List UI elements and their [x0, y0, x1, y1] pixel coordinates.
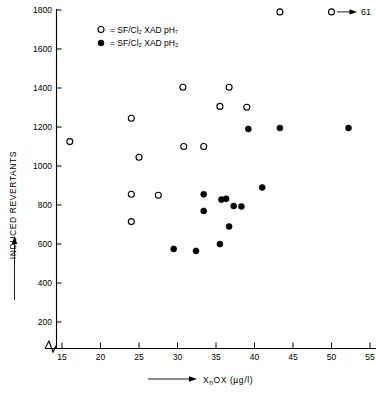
data-point — [201, 144, 207, 150]
data-point — [244, 104, 250, 110]
data-point — [67, 139, 73, 145]
x-axis-title-rest: OX (µg/l) — [214, 375, 254, 385]
data-point — [193, 248, 199, 254]
data-point — [277, 9, 283, 15]
x-axis-title-group: XnOX (µg/l) — [148, 375, 253, 386]
annotation-value-label: 61 — [361, 7, 371, 17]
x-tick-label-35: 35 — [211, 352, 221, 362]
data-point — [217, 241, 223, 247]
data-point — [128, 219, 134, 225]
data-point — [231, 203, 237, 209]
x-axis-title: XnOX (µg/l) — [203, 375, 253, 386]
x-tick-label-20: 20 — [96, 352, 106, 362]
axis-break-zigzag — [45, 341, 57, 352]
data-point — [346, 125, 352, 131]
data-point — [201, 208, 207, 214]
x-tick-label-40: 40 — [250, 352, 260, 362]
data-point — [171, 246, 177, 252]
y-tick-label-1200: 1200 — [33, 122, 52, 132]
legend: = SF/Cl₂ XAD pH₇ = SF/Cl₂ XAD pH₂ — [98, 25, 178, 49]
y-tick-label-1600: 1600 — [33, 44, 52, 54]
data-point — [223, 196, 229, 202]
x-tick-label-50: 50 — [327, 352, 337, 362]
plot-canvas: 1800 1600 1400 1200 1000 800 600 400 200… — [0, 0, 376, 396]
scatter-chart: 1800 1600 1400 1200 1000 800 600 400 200… — [0, 0, 376, 396]
annotation-arrowhead-icon — [350, 9, 358, 14]
y-tick-label-1400: 1400 — [33, 83, 52, 93]
data-point — [181, 144, 187, 150]
y-tick-label-600: 600 — [38, 239, 52, 249]
data-point — [128, 191, 134, 197]
x-tick-label-30: 30 — [173, 352, 183, 362]
data-point — [245, 126, 251, 132]
y-tick-label-1800: 1800 — [33, 5, 52, 15]
y-tick-label-400: 400 — [38, 278, 52, 288]
y-axis-title-group: INDUCED REVERTANTS — [8, 151, 18, 300]
data-point — [226, 84, 232, 90]
y-tick-label-200: 200 — [38, 317, 52, 327]
offscale-annotation: 61 — [337, 7, 371, 17]
data-point — [217, 103, 223, 109]
data-point — [155, 192, 161, 198]
series-ph2-points — [171, 125, 352, 254]
data-point — [136, 154, 142, 160]
x-tick-label-45: 45 — [288, 352, 298, 362]
data-point — [259, 185, 265, 191]
x-ticks — [62, 343, 370, 349]
legend-label-ph7: = SF/Cl₂ XAD pH₇ — [110, 25, 178, 35]
y-ticks — [57, 10, 62, 322]
legend-marker-filled-circle-icon — [98, 40, 104, 46]
data-point — [226, 224, 232, 230]
data-point — [277, 125, 283, 131]
legend-label-ph2: = SF/Cl₂ XAD pH₂ — [110, 38, 178, 48]
data-point — [128, 115, 134, 121]
legend-marker-open-circle-icon — [98, 27, 104, 33]
x-tick-label-25: 25 — [134, 352, 144, 362]
y-tick-label-1000: 1000 — [33, 161, 52, 171]
y-tick-label-800: 800 — [38, 200, 52, 210]
data-point — [180, 84, 186, 90]
data-point-offscale — [329, 9, 335, 15]
series-ph7-points — [67, 9, 335, 225]
x-tick-label-55: 55 — [365, 352, 375, 362]
data-point — [238, 203, 244, 209]
x-axis-arrowhead-icon — [189, 376, 197, 382]
data-point — [201, 191, 207, 197]
x-tick-label-15: 15 — [57, 352, 67, 362]
